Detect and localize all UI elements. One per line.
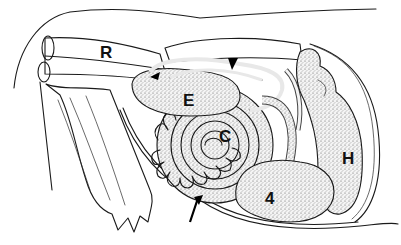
arrow-marker [190, 195, 203, 222]
organ-4 [236, 160, 334, 222]
label-r: R [100, 43, 112, 62]
pharynx-sheath [40, 82, 152, 232]
label-c: C [219, 127, 231, 146]
label-e: E [183, 91, 194, 110]
stomach-e [132, 59, 282, 116]
label-4: 4 [265, 189, 275, 208]
anatomical-diagram: R E C H 4 [0, 0, 401, 245]
label-h: H [342, 149, 354, 168]
